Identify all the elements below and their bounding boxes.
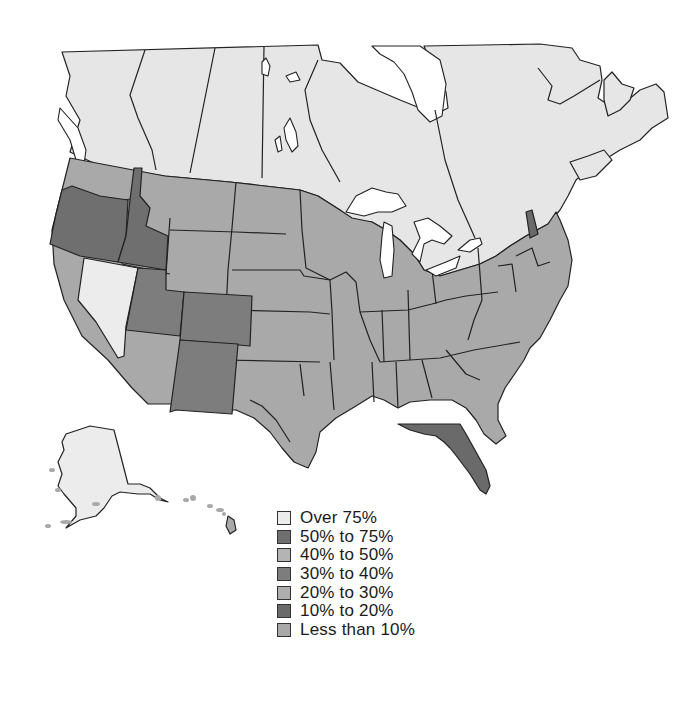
- legend-item-over-75: Over 75%: [277, 509, 415, 528]
- legend-item-30-40: 30% to 40%: [277, 565, 415, 584]
- legend-label: Less than 10%: [300, 620, 415, 640]
- legend-swatch: [277, 511, 291, 525]
- legend-label: 40% to 50%: [300, 545, 394, 565]
- legend-swatch: [277, 623, 291, 637]
- legend-swatch: [277, 548, 291, 562]
- state-hawaii: [183, 495, 236, 534]
- legend-item-40-50: 40% to 50%: [277, 546, 415, 565]
- legend-item-less-10: Less than 10%: [277, 621, 415, 640]
- state-alaska: [58, 426, 168, 528]
- legend-item-50-75: 50% to 75%: [277, 528, 415, 547]
- legend-label: Over 75%: [300, 508, 377, 528]
- legend-label: 50% to 75%: [300, 527, 394, 547]
- state-new-mexico: [170, 340, 238, 414]
- legend-swatch: [277, 604, 291, 618]
- legend-label: 30% to 40%: [300, 564, 394, 584]
- legend-label: 10% to 20%: [300, 601, 394, 621]
- legend-item-10-20: 10% to 20%: [277, 602, 415, 621]
- legend-item-20-30: 20% to 30%: [277, 583, 415, 602]
- legend-swatch: [277, 567, 291, 581]
- state-florida: [398, 424, 490, 494]
- legend-swatch: [277, 586, 291, 600]
- legend-swatch: [277, 530, 291, 544]
- legend: Over 75% 50% to 75% 40% to 50% 30% to 40…: [277, 509, 415, 639]
- state-colorado: [180, 292, 252, 346]
- legend-label: 20% to 30%: [300, 583, 394, 603]
